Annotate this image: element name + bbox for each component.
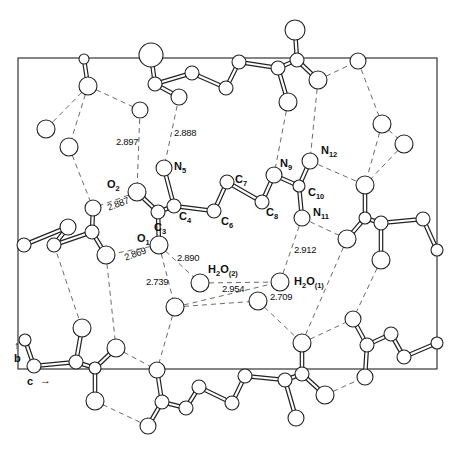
atom-a27 <box>85 225 99 239</box>
atom-a8 <box>290 53 304 67</box>
distance-label: 2.709 <box>270 292 292 302</box>
atom-a3 <box>171 89 187 105</box>
c-axis-arrow-icon: → <box>40 375 51 386</box>
atom-a31 <box>17 238 31 252</box>
atom-label-water-2: H2O(2) <box>208 264 238 279</box>
distance-label: 2.954 <box>222 284 244 294</box>
atom-label-water-1: H2O(1) <box>294 276 324 291</box>
atom-a11 <box>279 93 297 111</box>
hydrogen-bond <box>69 147 93 208</box>
atom-c7 <box>220 175 234 189</box>
atom-a36 <box>27 359 41 373</box>
atom-a34 <box>107 339 125 357</box>
atom-label-n9: N9 <box>280 158 292 173</box>
atom-a29 <box>60 219 76 235</box>
atom-a38 <box>89 362 101 374</box>
atom-a19 <box>395 135 413 153</box>
atom-a23 <box>431 244 443 256</box>
atom-n12 <box>302 153 318 169</box>
atom-a44 <box>192 380 206 394</box>
hydrogen-bond <box>69 86 88 147</box>
atom-label-c4: C4 <box>179 211 191 226</box>
atom-a50 <box>316 386 334 404</box>
distance-label: 2.890 <box>177 253 199 263</box>
atom-o1 <box>150 236 168 254</box>
atom-a47 <box>278 373 292 387</box>
atom-a26 <box>85 200 101 216</box>
distance-label: 2.888 <box>174 128 196 138</box>
hydrogen-bond <box>106 255 116 348</box>
atom-label-c6: C6 <box>221 216 233 231</box>
atom-n5 <box>156 160 172 176</box>
atom-label-n5: N5 <box>174 161 186 176</box>
atom-label-n11: N11 <box>313 207 329 222</box>
hydrogen-bond <box>54 245 82 328</box>
atom-a16 <box>60 138 78 156</box>
hydrogen-bond <box>310 80 318 161</box>
atom-a10 <box>309 71 327 89</box>
atom-a52 <box>249 292 267 310</box>
atom-a12 <box>132 102 148 118</box>
atom-label-o2: O2 <box>107 179 120 194</box>
atom-a39 <box>86 392 104 410</box>
atom-a1 <box>139 43 163 67</box>
atom-a17 <box>350 53 366 69</box>
b-axis-label: b <box>14 353 21 364</box>
atom-a46 <box>238 369 252 383</box>
atom-a25 <box>372 251 390 269</box>
atom-w2 <box>191 274 209 292</box>
atom-a24 <box>338 230 356 248</box>
atom-w1 <box>271 273 289 291</box>
atom-label-c3: C3 <box>154 222 166 237</box>
atom-a18 <box>373 115 391 133</box>
atom-label-c8: C8 <box>266 207 278 222</box>
atom-a51 <box>293 334 311 352</box>
atom-a37 <box>69 355 83 369</box>
hydrogen-bond <box>157 307 175 370</box>
distance-label: 2.912 <box>294 245 316 255</box>
atom-a30 <box>47 238 61 252</box>
atom-a15 <box>37 120 55 138</box>
atom-a21b <box>374 216 388 230</box>
atom-c3 <box>151 205 165 219</box>
atom-a48 <box>295 367 309 381</box>
atom-a6 <box>232 55 246 69</box>
hydrogen-bond <box>353 260 381 319</box>
atom-a42 <box>140 418 156 434</box>
atom-a21 <box>359 212 371 224</box>
atom-a7 <box>271 61 285 75</box>
atom-a13 <box>79 77 97 95</box>
atom-a58 <box>357 369 373 385</box>
hydrogen-bond <box>358 61 382 124</box>
atom-a57 <box>431 337 443 349</box>
atom-a56 <box>397 350 411 364</box>
atom-a41 <box>155 395 169 409</box>
atom-a9 <box>285 20 305 40</box>
atom-a33 <box>73 319 91 337</box>
atom-a32 <box>166 298 184 316</box>
atom-o2 <box>128 183 146 201</box>
atom-a54 <box>360 338 374 352</box>
atom-a4 <box>185 66 199 80</box>
atom-a35 <box>19 334 31 346</box>
atom-a14 <box>79 54 89 64</box>
atom-label-n12: N12 <box>321 145 337 160</box>
atom-a20 <box>356 176 374 194</box>
atom-a40 <box>149 362 165 378</box>
atom-a53 <box>345 311 361 327</box>
atom-a43 <box>179 401 193 415</box>
atom-a22 <box>416 212 430 226</box>
atom-a5 <box>219 81 233 95</box>
atom-n11 <box>294 210 310 226</box>
distance-label: 2.897 <box>116 137 138 147</box>
atom-a45 <box>225 396 239 410</box>
hydrogen-bond <box>137 110 140 192</box>
atom-a2 <box>148 77 162 91</box>
c-axis-label: c <box>27 376 33 387</box>
distance-label: 2.739 <box>146 277 168 287</box>
atom-c6 <box>207 204 221 218</box>
atom-a49 <box>288 410 304 426</box>
b-axis-arrow-icon: ↑ <box>14 340 20 351</box>
atom-a28 <box>97 246 115 264</box>
atom-label-c7: C7 <box>235 174 247 189</box>
